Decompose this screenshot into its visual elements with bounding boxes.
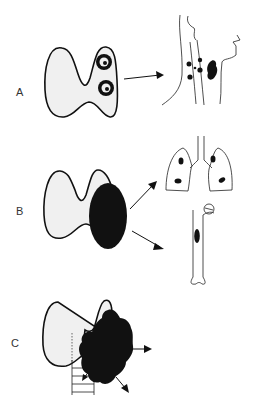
panel-b-thyroid xyxy=(44,170,127,249)
arrow-icon-b-lung xyxy=(130,181,157,209)
femur-bone-metastasis-icon xyxy=(191,204,214,284)
panel-a-thyroid xyxy=(45,47,118,117)
arrow-icon-c-lateral xyxy=(130,345,152,353)
panel-label-b: B xyxy=(16,205,23,217)
lung-metastasis-icon xyxy=(166,136,232,191)
arrow-icon-b-bone xyxy=(132,231,164,250)
arrow-icon-c-inferior xyxy=(116,377,129,393)
panel-label-c: C xyxy=(11,337,19,349)
thyroid-tumor-spread-diagram: A B C xyxy=(0,0,268,407)
neck-lymph-node-metastasis-icon xyxy=(162,15,240,105)
arrow-icon-a xyxy=(124,71,164,79)
panel-label-a: A xyxy=(16,86,23,98)
